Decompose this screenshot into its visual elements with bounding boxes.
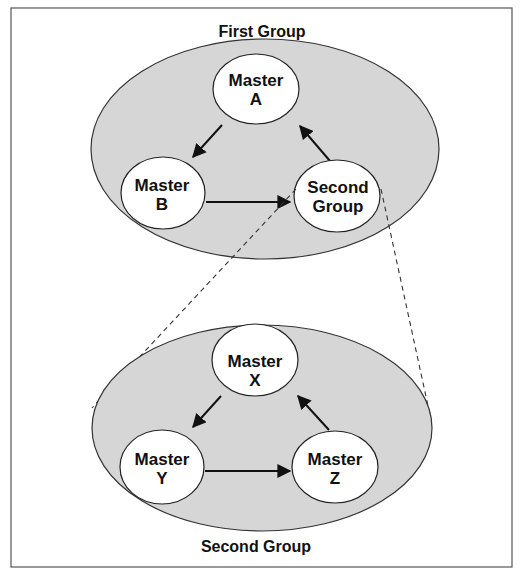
first-group-title: First Group [218,23,305,40]
node-master-x-line1: Master [228,352,283,371]
node-second-group-line2: Group [313,197,364,216]
node-master-a-line1: Master [229,71,284,90]
node-master-y: Master Y [120,430,204,504]
node-master-a: Master A [213,54,299,124]
node-master-b: Master B [121,157,205,229]
group-expansion-diagram: First Group Master A Master B Second Gro… [0,0,520,581]
node-second-group-line1: Second [307,178,368,197]
node-master-y-line1: Master [135,450,190,469]
node-master-y-line2: Y [156,469,168,488]
node-master-a-line2: A [250,90,262,109]
node-master-b-line2: B [156,195,168,214]
node-master-z-line2: Z [330,469,340,488]
node-second-group: Second Group [294,160,380,232]
second-group-title: Second Group [201,538,311,555]
node-master-x-line2: X [249,371,261,390]
node-master-b-line1: Master [135,176,190,195]
node-master-z: Master Z [292,431,378,503]
node-master-x: Master X [212,324,298,396]
node-master-z-line1: Master [308,450,363,469]
